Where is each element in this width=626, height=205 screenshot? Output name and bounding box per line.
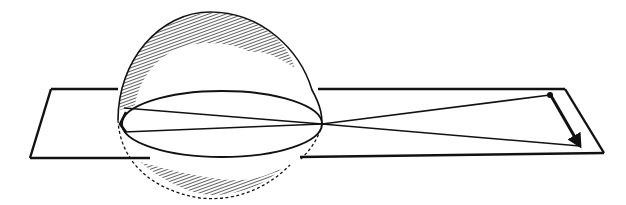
diagram-svg — [0, 0, 626, 205]
sphere-shading-bottom — [140, 162, 282, 195]
image-arrow-tail — [547, 92, 553, 98]
image-arrow — [550, 94, 580, 146]
diagram-figure — [0, 0, 626, 205]
lens-ellipse — [122, 91, 322, 157]
rays — [124, 95, 580, 146]
